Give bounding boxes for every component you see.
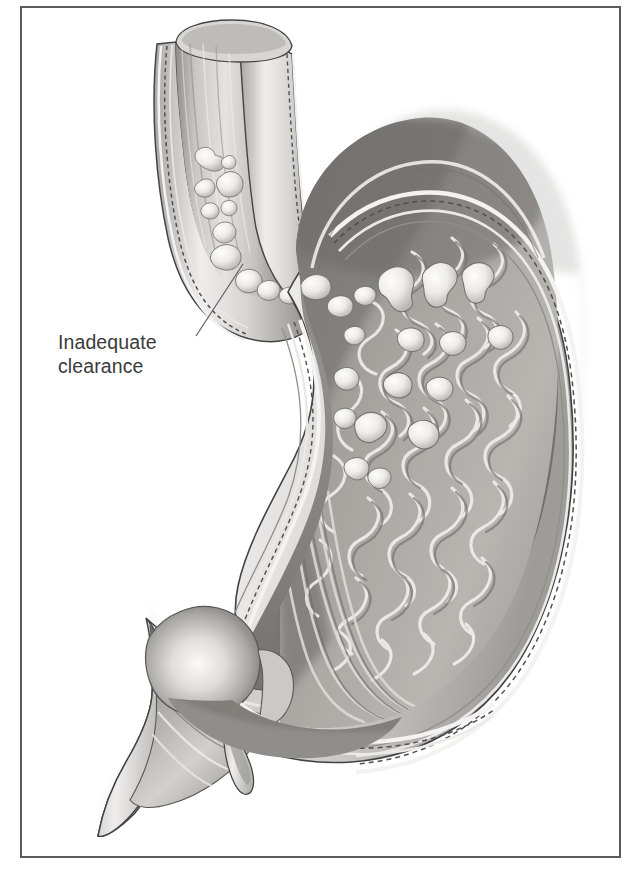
- figure-root: Inadequate clearance: [0, 0, 641, 881]
- inadequate-clearance-label: Inadequate clearance: [58, 330, 208, 378]
- stomach-illustration: [0, 0, 641, 881]
